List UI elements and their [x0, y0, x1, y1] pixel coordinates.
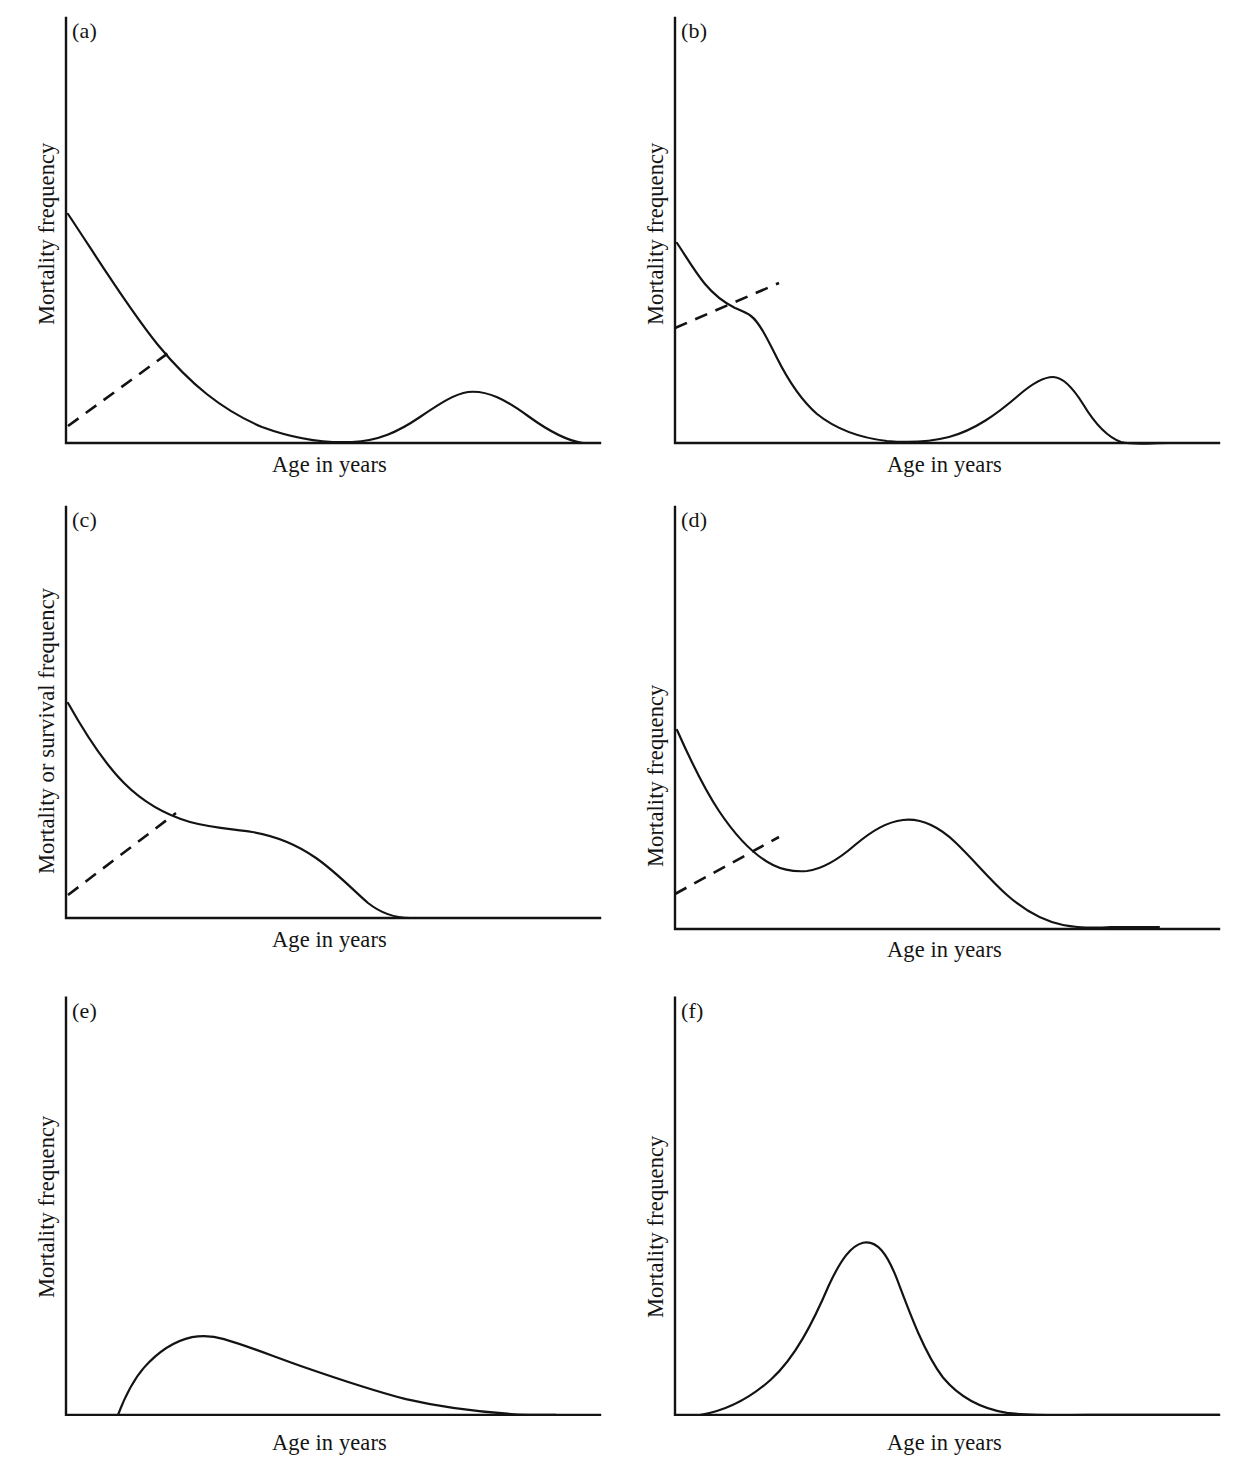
panel-e-curve	[118, 1336, 556, 1415]
panel-b: (b) Mortality frequency Age in years	[629, 0, 1249, 492]
panel-c-dashed-reference	[68, 813, 176, 895]
panel-c-tag: (c)	[72, 507, 97, 533]
panel-a-plot	[0, 0, 620, 492]
panel-c: (c) Mortality or survival frequency Age …	[0, 489, 620, 981]
panel-b-axes	[675, 18, 1219, 443]
panel-f-axes	[675, 998, 1219, 1415]
panel-f-plot	[629, 978, 1249, 1470]
panel-a-x-axis-label: Age in years	[272, 452, 387, 478]
panel-f-tag: (f)	[681, 998, 704, 1024]
panel-d-x-axis-label: Age in years	[887, 937, 1002, 963]
panel-e-axes	[66, 998, 600, 1415]
panel-c-curve	[68, 703, 600, 918]
panel-f-curve	[701, 1242, 1219, 1415]
panel-d-tag: (d)	[681, 507, 707, 533]
panel-e-tag: (e)	[72, 998, 97, 1024]
panel-d-axes	[675, 507, 1219, 929]
panel-d-y-axis-label: Mortality frequency	[643, 685, 669, 867]
panel-a-tag: (a)	[72, 18, 97, 44]
panel-e-plot	[0, 978, 620, 1470]
panel-b-dashed-reference	[675, 283, 779, 328]
panel-a-axes	[66, 18, 600, 443]
panel-b-curve	[677, 243, 1219, 444]
panel-d-plot	[629, 489, 1249, 981]
panel-b-plot	[629, 0, 1249, 492]
panel-a-dashed-reference	[68, 351, 171, 426]
figure-grid: (a) Mortality frequency Age in years (b)…	[0, 0, 1249, 1478]
panel-c-axes	[66, 507, 600, 918]
panel-d: (d) Mortality frequency Age in years	[629, 489, 1249, 981]
panel-d-dashed-reference	[675, 837, 779, 894]
panel-a: (a) Mortality frequency Age in years	[0, 0, 620, 492]
panel-a-y-axis-label: Mortality frequency	[34, 143, 60, 325]
panel-c-x-axis-label: Age in years	[272, 927, 387, 953]
panel-a-curve	[68, 214, 583, 443]
panel-d-curve	[677, 730, 1159, 928]
panel-c-plot	[0, 489, 620, 981]
panel-b-x-axis-label: Age in years	[887, 452, 1002, 478]
panel-b-y-axis-label: Mortality frequency	[643, 143, 669, 325]
panel-e-y-axis-label: Mortality frequency	[34, 1116, 60, 1298]
panel-b-tag: (b)	[681, 18, 707, 44]
panel-e-x-axis-label: Age in years	[272, 1430, 387, 1456]
panel-f-y-axis-label: Mortality frequency	[643, 1136, 669, 1318]
panel-f-x-axis-label: Age in years	[887, 1430, 1002, 1456]
panel-f: (f) Mortality frequency Age in years	[629, 978, 1249, 1470]
panel-e: (e) Mortality frequency Age in years	[0, 978, 620, 1470]
panel-c-y-axis-label: Mortality or survival frequency	[34, 588, 60, 874]
